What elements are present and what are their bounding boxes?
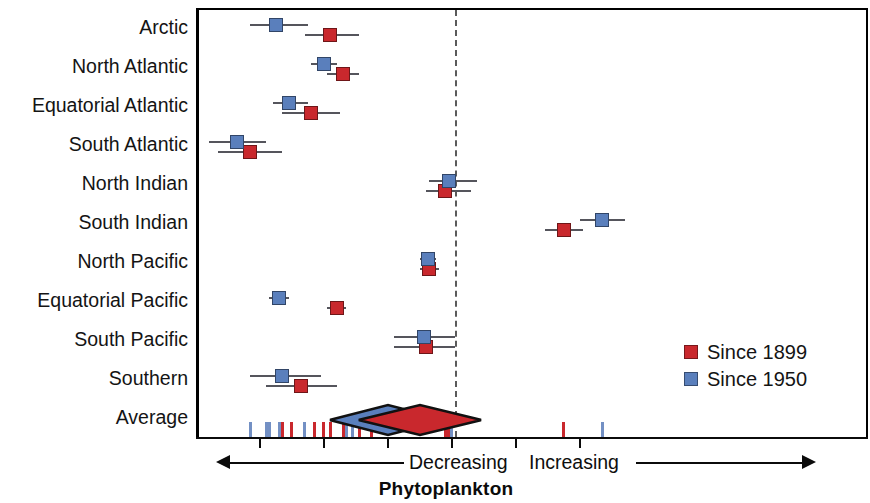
data-point-north-atlantic-since-1950 [317, 57, 331, 71]
x-axis-title: Phytoplankton [196, 478, 696, 500]
y-axis-label-arctic: Arctic [139, 18, 188, 38]
increasing-label: Increasing [529, 451, 619, 474]
y-axis-label-north-atlantic: North Atlantic [72, 57, 188, 77]
legend-label-since-1950: Since 1950 [707, 369, 807, 389]
y-axis-label-north-pacific: North Pacific [77, 252, 188, 272]
data-point-north-atlantic-since-1899 [336, 67, 350, 81]
rug-strip [199, 417, 866, 437]
rug-tick-since-1899 [290, 422, 293, 437]
legend-item-since-1950: Since 1950 [684, 365, 807, 392]
decreasing-arrow-icon [216, 455, 230, 469]
data-point-arctic-since-1899 [323, 28, 337, 42]
y-axis-label-southern: Southern [109, 369, 188, 389]
legend-item-since-1899: Since 1899 [684, 338, 807, 365]
data-point-southern-since-1899 [294, 379, 308, 393]
chart-root: ArcticNorth AtlanticEquatorial AtlanticS… [0, 0, 870, 503]
y-axis-label-south-indian: South Indian [78, 213, 188, 233]
x-axis-tick [387, 437, 389, 448]
rug-tick-since-1950 [601, 422, 604, 437]
increasing-arrow-icon [802, 455, 816, 469]
rug-tick-since-1899 [562, 422, 565, 437]
data-point-equatorial-atlantic-since-1950 [282, 96, 296, 110]
increasing-rule [636, 462, 804, 464]
data-point-southern-since-1950 [275, 369, 289, 383]
x-axis-tick [515, 437, 517, 448]
data-point-south-indian-since-1950 [595, 213, 609, 227]
data-point-arctic-since-1950 [269, 18, 283, 32]
data-point-equatorial-atlantic-since-1899 [304, 106, 318, 120]
y-axis-label-equatorial-pacific: Equatorial Pacific [37, 291, 188, 311]
data-point-north-pacific-since-1950 [421, 252, 435, 266]
rug-tick-since-1950 [268, 422, 271, 437]
y-axis-label-north-indian: North Indian [82, 174, 188, 194]
decreasing-rule [229, 462, 404, 464]
x-axis-tick [259, 437, 261, 448]
rug-tick-since-1899 [281, 422, 284, 437]
y-axis-label-equatorial-atlantic: Equatorial Atlantic [32, 96, 188, 116]
data-point-equatorial-pacific-since-1899 [330, 301, 344, 315]
data-point-south-pacific-since-1950 [417, 330, 431, 344]
x-axis-tick [579, 437, 581, 448]
data-point-south-atlantic-since-1950 [230, 135, 244, 149]
rug-tick-since-1950 [249, 422, 252, 437]
data-point-equatorial-pacific-since-1950 [272, 291, 286, 305]
data-point-south-atlantic-since-1899 [243, 145, 257, 159]
x-axis-tick [451, 437, 453, 448]
y-axis-label-average: Average [116, 408, 188, 428]
average-diamond-since-1899 [358, 403, 481, 437]
y-axis-label-south-pacific: South Pacific [74, 330, 188, 350]
rug-tick-since-1899 [322, 422, 325, 437]
y-axis-labels: ArcticNorth AtlanticEquatorial AtlanticS… [0, 0, 188, 503]
legend-label-since-1899: Since 1899 [707, 342, 807, 362]
legend-swatch-since-1950 [684, 372, 698, 386]
y-axis-label-south-atlantic: South Atlantic [69, 135, 188, 155]
x-axis [196, 437, 868, 439]
zero-reference-line [455, 10, 457, 437]
direction-annotation: Decreasing Increasing [196, 448, 868, 476]
decreasing-label: Decreasing [409, 451, 508, 474]
legend-swatch-since-1899 [684, 345, 698, 359]
x-axis-tick [323, 437, 325, 448]
legend: Since 1899 Since 1950 [684, 338, 807, 392]
rug-tick-since-1899 [313, 422, 316, 437]
rug-tick-since-1950 [303, 422, 306, 437]
data-point-north-indian-since-1950 [442, 174, 456, 188]
data-point-south-indian-since-1899 [557, 223, 571, 237]
